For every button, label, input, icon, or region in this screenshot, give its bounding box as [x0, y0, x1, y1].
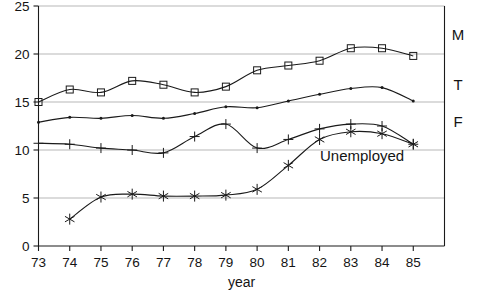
series-markers-unemployed [65, 126, 418, 224]
data-point-t-82 [318, 93, 321, 96]
data-point-f-78 [190, 132, 200, 142]
x-tick-label-80: 80 [250, 255, 265, 270]
y-tick-label-15: 15 [14, 95, 29, 110]
data-point-t-78 [193, 112, 196, 115]
series-label-unemployed: Unemployed [320, 147, 404, 164]
x-tick-label-82: 82 [312, 255, 327, 270]
data-point-unemployed-75 [96, 192, 106, 203]
data-point-f-76 [127, 145, 137, 155]
series-unemployed [65, 126, 418, 224]
data-point-f-73 [34, 138, 44, 148]
series-line-m [39, 47, 414, 102]
y-tick-label-20: 20 [14, 47, 29, 62]
data-point-f-74 [65, 139, 75, 149]
data-point-f-79 [221, 119, 231, 129]
y-tick-label-0: 0 [22, 239, 30, 254]
series-label-m: M [452, 26, 465, 43]
x-tick-label-84: 84 [375, 255, 391, 270]
data-point-unemployed-81 [284, 160, 294, 171]
series-label-f: F [453, 113, 462, 130]
x-tick-label-81: 81 [281, 255, 296, 270]
data-point-f-82 [315, 124, 325, 134]
data-point-t-76 [131, 114, 134, 117]
data-point-t-80 [256, 106, 259, 109]
x-tick-label-85: 85 [406, 255, 421, 270]
series-group [34, 45, 419, 225]
data-point-f-81 [283, 134, 293, 144]
series-labels: MTFUnemployed [320, 26, 464, 164]
data-point-unemployed-84 [377, 128, 387, 139]
x-axis-ticks: 73747576777879808182838485 [31, 246, 421, 270]
data-point-t-84 [381, 86, 384, 89]
data-point-f-80 [252, 143, 262, 153]
data-point-unemployed-74 [65, 214, 75, 225]
x-tick-label-75: 75 [93, 255, 108, 270]
series-t [37, 86, 415, 124]
x-tick-label-73: 73 [31, 255, 46, 270]
gridlines [39, 6, 445, 198]
data-point-unemployed-80 [252, 184, 262, 195]
data-point-unemployed-82 [315, 134, 325, 145]
x-tick-label-76: 76 [125, 255, 140, 270]
chart-container: 73747576777879808182838485 0510152025 MT… [0, 0, 483, 294]
x-tick-label-74: 74 [62, 255, 78, 270]
y-tick-label-5: 5 [22, 191, 30, 206]
data-point-t-81 [287, 100, 290, 103]
x-tick-label-83: 83 [343, 255, 358, 270]
data-point-f-75 [96, 143, 106, 153]
data-point-t-74 [68, 116, 71, 119]
data-point-t-85 [412, 100, 415, 103]
x-tick-label-79: 79 [218, 255, 233, 270]
y-tick-label-25: 25 [14, 0, 29, 14]
data-point-t-83 [349, 87, 352, 90]
y-tick-label-10: 10 [14, 143, 29, 158]
x-axis-title: year [228, 274, 256, 290]
data-point-t-79 [224, 105, 227, 108]
line-chart: 73747576777879808182838485 0510152025 MT… [0, 0, 483, 294]
data-point-t-77 [162, 117, 165, 120]
x-axis-title-group: year [228, 274, 256, 290]
data-point-t-73 [37, 121, 40, 124]
series-line-unemployed [70, 131, 414, 219]
series-label-t: T [453, 76, 462, 93]
y-axis-ticks: 0510152025 [14, 0, 38, 254]
data-point-f-77 [158, 148, 168, 158]
x-tick-label-77: 77 [156, 255, 171, 270]
data-point-t-75 [99, 117, 102, 120]
x-tick-label-78: 78 [187, 255, 202, 270]
